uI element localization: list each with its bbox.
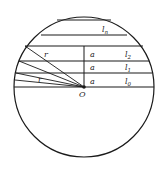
chord-label-ln: ln (102, 25, 109, 35)
spacing-label-a-3: a (90, 77, 95, 86)
chord-label-l2: l2 (125, 50, 132, 60)
radii (15, 46, 84, 87)
circle-chord-diagram: O ln l2 l1 l0 a a a r r (0, 0, 166, 170)
chord-label-l1: l1 (125, 63, 131, 73)
radius-4 (15, 80, 84, 87)
spacing-label-a-2: a (90, 63, 95, 72)
center-label: O (79, 90, 86, 99)
center-point (82, 85, 86, 89)
chord-label-l0: l0 (125, 77, 132, 87)
radius-label-r-1: r (44, 50, 49, 59)
spacing-label-a-1: a (90, 50, 95, 59)
